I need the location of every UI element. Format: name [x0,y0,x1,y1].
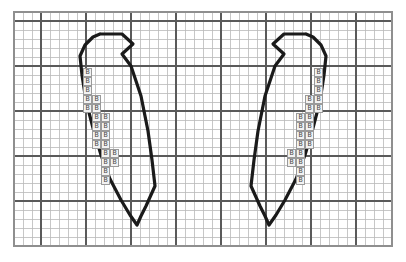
stitch-symbol-b: B [83,68,92,77]
stitch-symbol-b: B [92,104,101,113]
stitch-symbol-b: B [92,131,101,140]
stitch-symbol-b: B [296,158,305,167]
stitch-symbol-b: B [83,77,92,86]
stitch-symbol-layer: BBBBBBBBBBBBBBBBBBBBBBBBBBBBBBBBBBBBBBBB… [0,0,406,262]
stitch-symbol-b: B [296,167,305,176]
stitch-symbol-b: B [92,95,101,104]
stitch-symbol-b: B [305,131,314,140]
stitch-symbol-b: B [314,95,323,104]
stitch-symbol-b: B [314,77,323,86]
stitch-symbol-b: B [314,104,323,113]
stitch-symbol-b: B [110,158,119,167]
stitch-symbol-b: B [305,140,314,149]
stitch-symbol-b: B [287,158,296,167]
stitch-symbol-b: B [314,68,323,77]
stitch-symbol-b: B [101,176,110,185]
stitch-symbol-b: B [101,149,110,158]
stitch-symbol-b: B [296,131,305,140]
stitch-symbol-b: B [83,104,92,113]
stitch-symbol-b: B [83,95,92,104]
stitch-symbol-b: B [101,158,110,167]
stitch-symbol-b: B [305,113,314,122]
stitch-symbol-b: B [296,113,305,122]
stitch-symbol-b: B [296,122,305,131]
chart-canvas: BBBBBBBBBBBBBBBBBBBBBBBBBBBBBBBBBBBBBBBB… [0,0,406,262]
stitch-symbol-b: B [296,149,305,158]
stitch-symbol-b: B [305,95,314,104]
stitch-symbol-b: B [305,104,314,113]
stitch-symbol-b: B [314,86,323,95]
stitch-symbol-b: B [101,122,110,131]
stitch-symbol-b: B [296,140,305,149]
stitch-symbol-b: B [83,86,92,95]
stitch-symbol-b: B [101,167,110,176]
stitch-symbol-b: B [92,113,101,122]
stitch-symbol-b: B [287,149,296,158]
stitch-symbol-b: B [101,140,110,149]
stitch-symbol-b: B [296,176,305,185]
stitch-symbol-b: B [92,140,101,149]
stitch-symbol-b: B [305,122,314,131]
stitch-symbol-b: B [101,131,110,140]
stitch-symbol-b: B [92,122,101,131]
stitch-symbol-b: B [101,113,110,122]
stitch-symbol-b: B [110,149,119,158]
